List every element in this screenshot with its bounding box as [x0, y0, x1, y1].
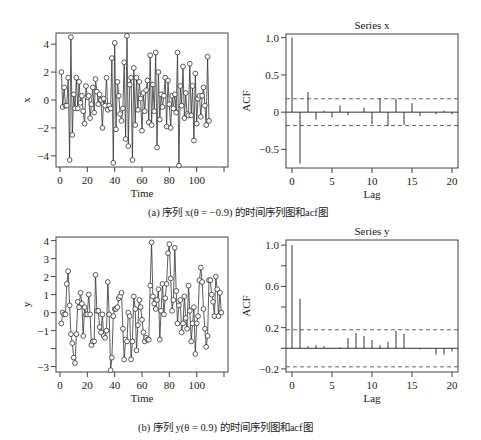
data-point: [175, 50, 180, 55]
x-tick-label: 0: [289, 175, 295, 187]
x-tick-label: 60: [137, 174, 149, 186]
data-point: [179, 103, 184, 108]
data-point: [103, 335, 108, 340]
data-point: [78, 290, 83, 295]
data-point: [137, 298, 142, 303]
data-point: [162, 93, 167, 98]
data-point: [129, 357, 134, 362]
data-point: [160, 105, 165, 110]
x-tick-label: 100: [188, 174, 205, 186]
data-point: [204, 344, 209, 349]
data-point: [125, 339, 130, 344]
data-point: [209, 292, 214, 297]
data-point: [151, 294, 156, 299]
y-tick-label: 0.5: [265, 69, 279, 81]
data-point: [198, 114, 203, 119]
data-point: [73, 361, 78, 366]
data-point: [174, 289, 179, 294]
data-point: [186, 283, 191, 288]
data-point: [146, 337, 151, 342]
y-tick-label: 2: [44, 271, 50, 283]
data-point: [140, 128, 145, 133]
y-tick-label: 1.0: [265, 32, 279, 44]
y-tick-label: −0.2: [259, 363, 279, 375]
data-point: [70, 133, 75, 138]
data-point: [185, 326, 190, 331]
data-point: [121, 106, 126, 111]
x-axis-label: Lag: [363, 188, 381, 200]
data-point: [198, 265, 203, 270]
data-point: [108, 368, 113, 373]
data-point: [148, 53, 153, 58]
data-point: [96, 308, 101, 313]
data-point: [164, 281, 169, 286]
data-point: [174, 110, 179, 115]
data-point: [104, 328, 109, 333]
x-tick-label: 15: [407, 379, 419, 391]
x-axis-label: Lag: [363, 392, 381, 404]
data-point: [64, 281, 69, 286]
y-tick-label: 0: [274, 106, 280, 118]
x-tick-label: 20: [447, 175, 459, 187]
data-point: [153, 307, 158, 312]
data-point: [92, 110, 97, 115]
data-point: [67, 158, 72, 163]
data-point: [166, 251, 171, 256]
chart-title: Series y: [354, 225, 390, 237]
data-point: [122, 60, 127, 65]
data-point: [115, 305, 120, 310]
data-point: [112, 40, 117, 45]
data-point: [183, 316, 188, 321]
data-point: [157, 117, 162, 122]
data-point: [75, 106, 80, 111]
data-point: [74, 332, 79, 337]
data-point: [213, 274, 218, 279]
data-point: [133, 307, 138, 312]
x-tick-label: 40: [109, 174, 121, 186]
data-point: [148, 283, 153, 288]
y-tick-label: −3: [37, 361, 49, 373]
data-point: [78, 100, 83, 105]
data-point: [118, 112, 123, 117]
y-axis-label: ACF: [240, 90, 252, 111]
data-point: [125, 33, 130, 38]
x-tick-label: 15: [407, 175, 419, 187]
data-point: [175, 321, 180, 326]
data-point: [194, 121, 199, 126]
x-tick-label: 60: [137, 379, 149, 391]
y-tick-label: 1: [44, 289, 50, 301]
data-point: [181, 321, 186, 326]
data-point: [156, 70, 161, 75]
data-point: [66, 269, 71, 274]
data-point: [162, 312, 167, 317]
x-axis-label: Time: [131, 392, 154, 404]
data-point: [211, 299, 216, 304]
data-point: [136, 107, 141, 112]
data-point: [201, 85, 206, 90]
x-tick-label: 20: [82, 379, 94, 391]
chart-acf-y: Series y05101520Lag−0.20.20.61.0ACF: [240, 225, 458, 404]
data-point: [64, 103, 69, 108]
y-axis-label: ACF: [240, 295, 252, 316]
y-tick-label: 2: [44, 66, 50, 78]
data-point: [157, 337, 162, 342]
data-point: [126, 144, 131, 149]
plot-frame: [286, 240, 458, 372]
data-point: [123, 137, 128, 142]
x-tick-label: 0: [57, 174, 63, 186]
data-point: [178, 84, 183, 89]
data-point: [127, 82, 132, 87]
data-point: [156, 287, 161, 292]
data-point: [144, 88, 149, 93]
x-tick-label: 100: [188, 379, 205, 391]
data-point: [97, 92, 102, 97]
data-point: [200, 280, 205, 285]
series-line: [61, 36, 209, 166]
y-tick-label: 0: [44, 94, 50, 106]
data-point: [167, 102, 172, 107]
y-tick-label: 0.2: [265, 322, 279, 334]
data-point: [192, 138, 197, 143]
data-point: [108, 106, 113, 111]
data-point: [141, 330, 146, 335]
y-tick-label: −4: [37, 150, 49, 162]
